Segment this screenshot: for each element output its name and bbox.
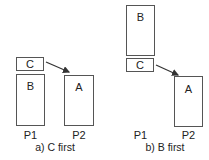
arrow-c-to-a-panel-b (156, 65, 178, 75)
task-box-b: B (126, 5, 155, 56)
processor-label-p2: P2 (64, 129, 94, 141)
task-label-a: A (175, 83, 202, 95)
arrow-c-to-a-panel-a (46, 62, 69, 72)
processor-label-p1: P1 (126, 129, 155, 141)
task-box-a: A (174, 76, 203, 127)
task-label-c: C (17, 58, 43, 70)
task-box-c: C (16, 57, 44, 71)
task-box-a: A (64, 75, 94, 126)
caption-b: b) B first (130, 141, 200, 153)
task-label-b: B (17, 80, 44, 92)
caption-a: a) C first (20, 141, 90, 153)
task-label-b: B (127, 11, 154, 23)
task-label-c: C (127, 59, 153, 71)
task-box-c: C (126, 58, 154, 72)
processor-label-p2: P2 (174, 129, 203, 141)
task-box-b: B (16, 74, 45, 126)
task-label-a: A (65, 81, 93, 93)
processor-label-p1: P1 (16, 129, 45, 141)
